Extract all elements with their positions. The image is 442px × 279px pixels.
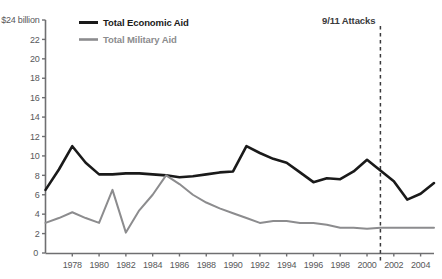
x-axis-tick-label: 2002	[384, 260, 403, 270]
chart-legend: Total Economic Aid Total Military Aid	[79, 17, 189, 45]
chart-container: 246810121416182022$24 billion 1978198019…	[0, 0, 442, 279]
series-line-total-economic-aid	[46, 146, 435, 199]
y-axis-tick-label: 6	[35, 190, 40, 200]
x-axis-tick-label: 1992	[250, 260, 269, 270]
x-axis-tick-label: 1994	[277, 260, 296, 270]
x-axis-origin-label: 0	[33, 248, 38, 258]
line-chart: 246810121416182022$24 billion 1978198019…	[0, 0, 442, 279]
x-axis-tick-label: 2004	[411, 260, 430, 270]
legend-label-total-economic-aid: Total Economic Aid	[103, 17, 189, 28]
x-axis-tick-label: 2000	[357, 260, 376, 270]
x-axis-tick-label: 1990	[223, 260, 242, 270]
x-axis-tick-label: 1978	[63, 260, 82, 270]
y-axis-tick-label: 20	[30, 54, 40, 64]
y-axis-tick-label: 18	[30, 73, 40, 83]
x-axis-tick-label: 1996	[304, 260, 323, 270]
legend-label-total-military-aid: Total Military Aid	[103, 34, 177, 45]
y-axis-tick-label: 10	[30, 151, 40, 161]
x-axis-ticks: 1978198019821984198619881990199219941996…	[63, 253, 431, 270]
y-axis-tick-label: 4	[35, 209, 40, 219]
y-axis-tick-label: 14	[30, 112, 40, 122]
y-axis-ticks: 246810121416182022$24 billion	[1, 15, 45, 253]
y-axis-tick-label: 22	[30, 35, 40, 45]
x-axis-tick-label: 1988	[197, 260, 216, 270]
x-axis-tick-label: 1998	[331, 260, 350, 270]
y-axis-tick-label: $24 billion	[1, 15, 40, 25]
annotation-label-9-11: 9/11 Attacks	[322, 15, 375, 26]
chart-axes	[46, 20, 435, 254]
x-axis-tick-label: 1982	[116, 260, 135, 270]
y-axis-tick-label: 2	[35, 229, 40, 239]
y-axis-tick-label: 12	[30, 132, 40, 142]
y-axis-tick-label: 16	[30, 93, 40, 103]
y-axis-tick-label: 8	[35, 171, 40, 181]
x-axis-tick-label: 1984	[143, 260, 162, 270]
x-axis-tick-label: 1980	[89, 260, 108, 270]
x-axis-tick-label: 1986	[170, 260, 189, 270]
series-line-total-military-aid	[46, 175, 435, 232]
